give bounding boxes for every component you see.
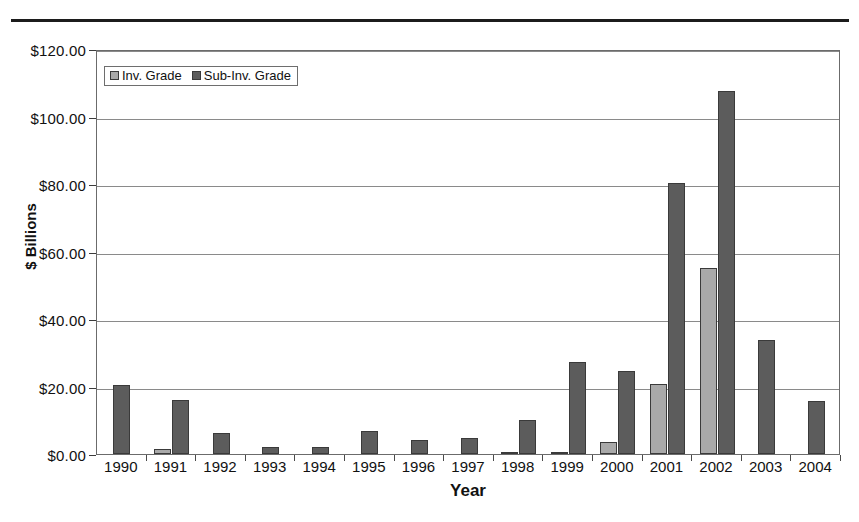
x-axis-tick-label: 1992: [203, 458, 236, 475]
x-axis-tick-label: 1997: [451, 458, 484, 475]
y-axis-tick-label: $100.00: [30, 109, 86, 126]
bar-inv-grade-2002: [700, 268, 717, 454]
y-axis-tick-label: $40.00: [39, 312, 86, 329]
y-axis-title: $ Billions: [22, 177, 39, 297]
sub-inv-grade-swatch-icon: [192, 71, 201, 80]
bar-inv-grade-1999: [551, 452, 568, 454]
bar-sub-inv-grade-1990: [113, 385, 130, 454]
bar-sub-inv-grade-2002: [718, 91, 735, 454]
y-axis-tick-mark: [89, 253, 96, 254]
bar-inv-grade-1991: [154, 449, 171, 454]
inv-grade-swatch-icon: [110, 71, 119, 80]
bar-sub-inv-grade-2003: [758, 340, 775, 454]
legend-label-inv-grade: Inv. Grade: [122, 69, 182, 82]
y-axis-tick-mark: [89, 118, 96, 119]
x-axis-tick-label: 1999: [551, 458, 584, 475]
y-axis-tick-label: $80.00: [39, 177, 86, 194]
bar-sub-inv-grade-1993: [262, 447, 279, 454]
bar-sub-inv-grade-1999: [569, 362, 586, 454]
x-axis-tick-label: 1995: [352, 458, 385, 475]
x-axis-tick-label: 1991: [154, 458, 187, 475]
x-axis-tick-label: 2002: [699, 458, 732, 475]
x-axis-tick-label: 1996: [402, 458, 435, 475]
bar-inv-grade-2000: [600, 442, 617, 454]
y-axis-tick-mark: [89, 50, 96, 51]
legend-item-inv-grade: Inv. Grade: [110, 69, 182, 82]
bar-sub-inv-grade-1997: [461, 438, 478, 454]
bar-inv-grade-2001: [650, 384, 667, 454]
bar-sub-inv-grade-1992: [213, 433, 230, 454]
bar-sub-inv-grade-1991: [172, 400, 189, 454]
y-axis-tick-label: $20.00: [39, 379, 86, 396]
x-axis-tick-label: 2000: [600, 458, 633, 475]
y-axis-tick-mark: [89, 388, 96, 389]
x-axis-tick-label: 2004: [799, 458, 832, 475]
bar-sub-inv-grade-1995: [361, 431, 378, 454]
legend-item-sub-inv-grade: Sub-Inv. Grade: [192, 69, 291, 82]
y-axis-tick-label: $120.00: [30, 42, 86, 59]
bar-sub-inv-grade-2000: [618, 371, 635, 454]
legend-label-sub-inv-grade: Sub-Inv. Grade: [204, 69, 291, 82]
x-axis-tick-labels: 1990199119921993199419951996199719981999…: [96, 458, 840, 482]
y-axis-tick-mark: [89, 320, 96, 321]
x-axis-tick-label: 1994: [303, 458, 336, 475]
chart-legend: Inv. Grade Sub-Inv. Grade: [104, 66, 298, 86]
y-axis-tick-label: $0.00: [47, 447, 86, 464]
x-axis-tick-label: 1998: [501, 458, 534, 475]
y-axis-tick-mark: [89, 455, 96, 456]
bar-inv-grade-1998: [501, 452, 518, 454]
bar-sub-inv-grade-2001: [668, 183, 685, 454]
bar-sub-inv-grade-2004: [808, 401, 825, 454]
bar-chart-figure: $0.00$20.00$40.00$60.00$80.00$100.00$120…: [0, 0, 859, 522]
x-axis-tick-label: 1993: [253, 458, 286, 475]
gridline: [97, 51, 839, 52]
bar-sub-inv-grade-1994: [312, 447, 329, 454]
header-rule: [11, 19, 849, 22]
y-axis-tick-mark: [89, 185, 96, 186]
bar-sub-inv-grade-1996: [411, 440, 428, 454]
x-axis-tick-mark: [840, 455, 841, 461]
x-axis-tick-label: 2003: [749, 458, 782, 475]
x-axis-tick-label: 2001: [650, 458, 683, 475]
bar-sub-inv-grade-1998: [519, 420, 536, 454]
y-axis-tick-label: $60.00: [39, 244, 86, 261]
x-axis-tick-label: 1990: [104, 458, 137, 475]
x-axis-title: Year: [96, 481, 840, 501]
y-axis-tick-labels: $0.00$20.00$40.00$60.00$80.00$100.00$120…: [0, 0, 90, 522]
plot-area: [96, 50, 840, 455]
